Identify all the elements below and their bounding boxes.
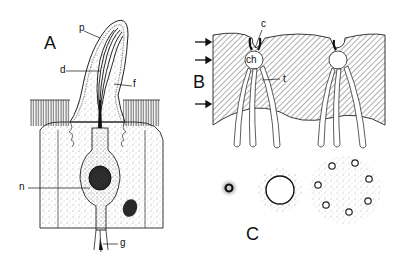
- panel-c-drawing: [219, 156, 381, 224]
- pore-large: [266, 176, 294, 204]
- label-t: t: [283, 74, 286, 84]
- label-c: c: [261, 19, 266, 29]
- label-g: g: [120, 238, 126, 248]
- label-ch: ch: [246, 55, 257, 65]
- label-n: n: [19, 182, 25, 192]
- panel-a-drawing: [28, 20, 163, 252]
- diagram-drawing: [0, 0, 405, 267]
- chamber-right: [329, 51, 347, 69]
- panel-b-drawing: [195, 30, 385, 148]
- panel-b-label: B: [193, 73, 205, 91]
- label-d: d: [60, 65, 66, 75]
- panel-c-label: C: [246, 225, 259, 243]
- label-p: p: [79, 23, 85, 33]
- panel-a-label: A: [44, 34, 56, 52]
- label-f: f: [133, 79, 136, 89]
- figure-canvas: A B C p d f n g c ch t: [0, 0, 405, 267]
